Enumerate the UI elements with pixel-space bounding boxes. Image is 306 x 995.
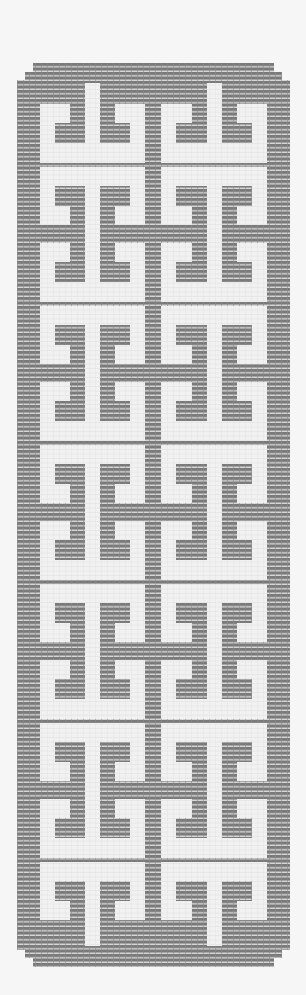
spine (207, 742, 222, 762)
notch (115, 660, 145, 679)
spine (85, 345, 100, 364)
spine (207, 818, 222, 838)
notch (237, 484, 267, 503)
frame-side (40, 401, 55, 421)
corner-cut (17, 950, 25, 958)
spine (85, 206, 100, 225)
notch (161, 243, 192, 262)
corner-cut (274, 958, 290, 967)
notch (115, 623, 145, 642)
notch (40, 104, 70, 123)
frame-side (40, 123, 55, 143)
notch (40, 243, 70, 262)
notch (40, 623, 70, 642)
spine (85, 262, 100, 282)
notch (237, 206, 267, 225)
notch (40, 206, 70, 225)
frame-side (130, 881, 145, 901)
spine (207, 401, 222, 421)
spine (85, 679, 100, 699)
spine (207, 345, 222, 364)
frame-side (40, 742, 55, 762)
frame-side (40, 603, 55, 623)
notch (40, 901, 70, 920)
notch (237, 623, 267, 642)
spine (85, 920, 100, 946)
spine (207, 901, 222, 920)
crochet-chart (0, 0, 306, 995)
spine (85, 503, 100, 521)
spine (85, 325, 100, 345)
notch (40, 521, 70, 540)
spine (207, 623, 222, 642)
notch (161, 104, 192, 123)
frame-side (252, 262, 267, 282)
open-row (40, 282, 145, 302)
frame-side (161, 401, 176, 421)
open-row (40, 699, 145, 719)
spine (207, 781, 222, 799)
corner-cut (17, 958, 33, 967)
spine (207, 104, 222, 123)
notch (161, 206, 192, 225)
corner-cut (17, 72, 25, 80)
spine (85, 881, 100, 901)
notch (40, 799, 70, 818)
filled-area (17, 63, 290, 967)
open-row (161, 445, 267, 464)
frame-side (130, 818, 145, 838)
notch (161, 623, 192, 642)
spine (207, 123, 222, 143)
spine (85, 401, 100, 421)
spine (207, 540, 222, 560)
notch (161, 382, 192, 401)
frame-side (252, 464, 267, 484)
spine (207, 521, 222, 540)
corner-cut (274, 63, 290, 72)
frame-side (40, 262, 55, 282)
notch (40, 762, 70, 781)
notch (115, 799, 145, 818)
spine (85, 484, 100, 503)
spine (207, 799, 222, 818)
notch (237, 799, 267, 818)
frame-side (252, 818, 267, 838)
notch (115, 762, 145, 781)
notch (161, 762, 192, 781)
spine (85, 540, 100, 560)
open-row (40, 143, 145, 163)
frame-side (130, 325, 145, 345)
frame-side (252, 325, 267, 345)
open-row (161, 306, 267, 325)
open-row (161, 584, 267, 603)
frame-side (161, 186, 176, 206)
frame-side (40, 818, 55, 838)
notch (161, 799, 192, 818)
spine (207, 262, 222, 282)
spine (85, 623, 100, 642)
spine (85, 901, 100, 920)
frame-side (130, 679, 145, 699)
notch (40, 484, 70, 503)
notch (40, 660, 70, 679)
frame-side (130, 464, 145, 484)
spine (85, 464, 100, 484)
notch (115, 243, 145, 262)
spine (207, 660, 222, 679)
spine (207, 762, 222, 781)
spine (85, 225, 100, 243)
spine (85, 521, 100, 540)
spine (85, 799, 100, 818)
notch (115, 484, 145, 503)
open-row (40, 723, 145, 742)
frame-side (130, 603, 145, 623)
spine (207, 642, 222, 660)
frame-side (40, 464, 55, 484)
open-row (161, 167, 267, 186)
spine (207, 484, 222, 503)
frame-side (130, 742, 145, 762)
notch (115, 901, 145, 920)
open-row (40, 584, 145, 603)
frame-side (130, 401, 145, 421)
notch (237, 762, 267, 781)
